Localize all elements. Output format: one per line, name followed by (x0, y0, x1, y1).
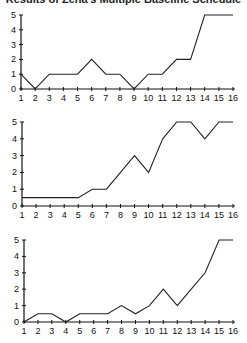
x-tick-label: 15 (214, 93, 224, 103)
x-tick-label: 3 (47, 93, 52, 103)
y-tick-label: 4 (14, 251, 19, 261)
multiple-baseline-charts: 0123451234567891011121314151601234512345… (0, 0, 247, 343)
x-tick-label: 9 (132, 210, 137, 220)
y-tick-label: 0 (11, 84, 16, 94)
x-tick-label: 2 (35, 326, 40, 336)
y-tick-label: 2 (11, 54, 16, 64)
x-tick-label: 4 (62, 210, 67, 220)
x-tick-label: 8 (118, 210, 123, 220)
y-tick-label: 1 (14, 301, 19, 311)
x-tick-label: 12 (172, 326, 182, 336)
x-tick-label: 5 (76, 210, 81, 220)
y-tick-label: 3 (14, 268, 19, 278)
x-tick-label: 11 (158, 210, 167, 220)
y-tick-label: 1 (11, 69, 16, 79)
x-tick-label: 1 (18, 93, 23, 103)
y-tick-label: 5 (14, 235, 19, 245)
x-tick-label: 14 (200, 326, 210, 336)
x-tick-label: 13 (186, 210, 196, 220)
x-tick-label: 16 (228, 210, 238, 220)
x-tick-label: 2 (33, 93, 38, 103)
x-tick-label: 10 (143, 93, 153, 103)
x-tick-label: 8 (119, 326, 124, 336)
y-tick-label: 2 (14, 284, 19, 294)
x-tick-label: 7 (105, 326, 110, 336)
x-tick-label: 16 (228, 93, 238, 103)
x-tick-label: 9 (133, 326, 138, 336)
x-tick-label: 4 (61, 93, 66, 103)
x-tick-label: 7 (104, 210, 109, 220)
x-tick-label: 4 (63, 326, 68, 336)
data-line (24, 240, 233, 322)
chart-panel-2: 01234512345678910111213141516 (12, 117, 238, 220)
x-tick-label: 15 (214, 210, 224, 220)
x-tick-label: 13 (186, 326, 196, 336)
x-tick-label: 3 (48, 210, 53, 220)
y-tick-label: 3 (11, 40, 16, 50)
y-tick-label: 3 (12, 151, 17, 161)
x-tick-label: 1 (21, 326, 26, 336)
chart-panel-1: 01234512345678910111213141516 (11, 10, 238, 103)
x-tick-label: 11 (159, 326, 168, 336)
y-tick-label: 4 (11, 25, 16, 35)
y-tick-label: 5 (11, 10, 16, 20)
x-tick-label: 6 (89, 93, 94, 103)
x-tick-label: 16 (228, 326, 238, 336)
y-tick-label: 0 (12, 201, 17, 211)
x-tick-label: 2 (34, 210, 39, 220)
x-tick-label: 8 (117, 93, 122, 103)
x-tick-label: 5 (75, 93, 80, 103)
y-tick-label: 5 (12, 117, 17, 127)
x-tick-label: 1 (19, 210, 24, 220)
y-tick-label: 4 (12, 134, 17, 144)
y-tick-label: 0 (14, 317, 19, 327)
x-tick-label: 5 (77, 326, 82, 336)
x-tick-label: 12 (172, 210, 182, 220)
x-tick-label: 15 (214, 326, 224, 336)
x-tick-label: 6 (90, 210, 95, 220)
x-tick-label: 7 (103, 93, 108, 103)
x-tick-label: 10 (144, 210, 154, 220)
y-tick-label: 2 (12, 167, 17, 177)
data-line (22, 122, 233, 198)
y-tick-label: 1 (12, 184, 17, 194)
x-tick-label: 11 (158, 93, 167, 103)
x-tick-label: 12 (171, 93, 181, 103)
data-line (21, 15, 233, 89)
x-tick-label: 6 (91, 326, 96, 336)
x-tick-label: 3 (49, 326, 54, 336)
x-tick-label: 9 (132, 93, 137, 103)
x-tick-label: 14 (200, 210, 210, 220)
x-tick-label: 14 (200, 93, 210, 103)
x-tick-label: 13 (186, 93, 196, 103)
chart-panel-3: 01234512345678910111213141516 (14, 235, 238, 336)
x-tick-label: 10 (144, 326, 154, 336)
